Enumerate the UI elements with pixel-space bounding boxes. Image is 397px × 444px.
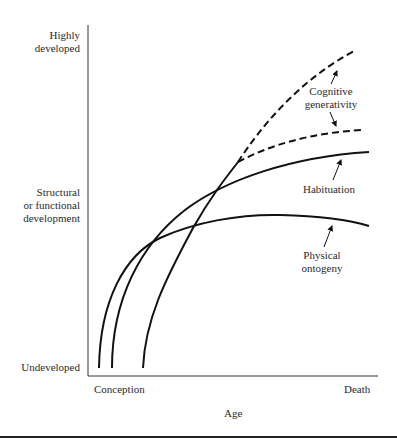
cognitive-generativity-curve [143,162,238,368]
physical-ontogeny-curve [99,215,369,368]
cognitive-generativity-lower-branch [238,130,362,162]
x-label-death: Death [344,383,370,396]
y-label-line: Structural [0,186,80,199]
y-label-highly-developed: Highly developed [0,29,80,55]
y-label-line: development [0,212,80,225]
x-axis-title: Age [224,407,242,420]
curve-label-line: ontogeny [287,262,357,275]
developmental-curves-diagram: Highly developed Structural or functiona… [0,0,397,444]
y-label-line: or functional [0,199,80,212]
cognitive-lower-arrow [330,112,336,126]
cognitive-upper-arrow [331,71,337,84]
label-cognitive-generativity: Cognitive generativity [296,85,366,111]
label-habituation: Habituation [294,183,364,196]
y-label-structural-development: Structural or functional development [0,186,80,225]
y-label-undeveloped: Undeveloped [0,361,80,374]
curve-label-line: Physical [287,249,357,262]
x-label-conception: Conception [94,383,145,396]
habituation-arrow [333,160,341,180]
y-label-line: Highly [0,29,80,42]
y-label-line: developed [0,42,80,55]
physical-ontogeny-arrow [324,226,332,247]
curve-label-line: Cognitive [296,85,366,98]
label-physical-ontogeny: Physical ontogeny [287,249,357,275]
curve-label-line: generativity [296,98,366,111]
